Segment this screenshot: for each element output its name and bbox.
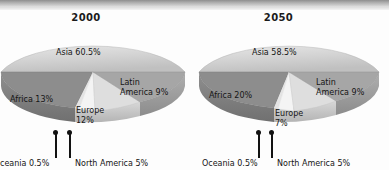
- label-latin-america-2050: Latin America 9%: [316, 78, 364, 97]
- leader-line-north-america-2050: [271, 134, 273, 158]
- label-latin-america-2000: Latin America 9%: [120, 78, 168, 97]
- label-asia-2000: Asia 60.5%: [56, 48, 101, 58]
- label-oceania-2000: ceania 0.5%: [0, 159, 49, 169]
- pie-2050: Asia 58.5% Africa 20% Europe 7% Latin Am…: [196, 10, 389, 170]
- label-europe-2050: Europe 7%: [275, 109, 303, 128]
- pie-2000: Asia 60.5% Africa 13% Europe 12% Latin A…: [0, 10, 196, 170]
- label-asia-2050: Asia 58.5%: [252, 48, 297, 58]
- label-africa-2000: Africa 13%: [10, 95, 53, 105]
- label-north-america-2050: North America 5%: [277, 159, 350, 169]
- leader-line-oceania-2050: [258, 134, 260, 158]
- label-africa-2050: Africa 20%: [209, 91, 252, 101]
- top-gradient-strip: [0, 0, 389, 7]
- chart-panel-2000: 2000: [0, 10, 196, 170]
- label-europe-2000: Europe 12%: [76, 106, 104, 125]
- leader-line-oceania-2000: [55, 134, 57, 158]
- leader-line-north-america-2000: [69, 134, 71, 158]
- chart-panel-2050: 2050: [196, 10, 389, 170]
- label-oceania-2050: Oceania 0.5%: [202, 159, 258, 169]
- pie-chart-figure: 2000: [0, 0, 389, 170]
- label-north-america-2000: North America 5%: [75, 159, 148, 169]
